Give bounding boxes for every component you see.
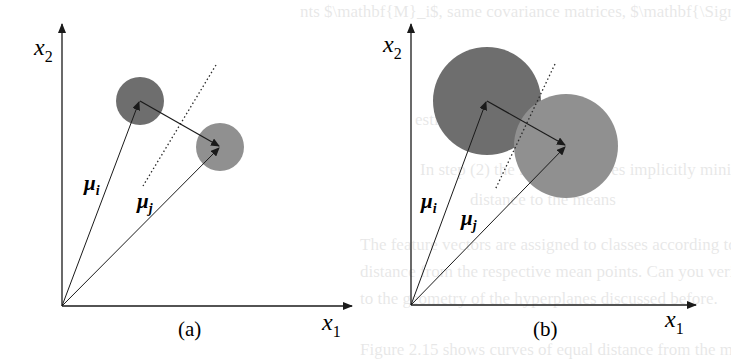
panel-caption-b: (b) bbox=[533, 317, 558, 341]
y-axis-label: x2 bbox=[382, 31, 402, 62]
mean-i-label: μi bbox=[83, 171, 100, 198]
x-axis-label: x1 bbox=[321, 309, 341, 340]
mean-j-label: μj bbox=[136, 189, 153, 216]
difference-vector bbox=[140, 101, 219, 146]
panel-caption-a: (a) bbox=[178, 317, 201, 341]
mean-i-label: μi bbox=[420, 189, 437, 216]
mean-vector-j bbox=[411, 147, 565, 305]
x-axis-label: x1 bbox=[664, 306, 684, 337]
mean-vector-i bbox=[62, 102, 139, 306]
cluster-j-disc bbox=[514, 94, 618, 198]
cluster-diagram: x2 x1 μi μj (a) x2 x1 μi μj bbox=[0, 0, 731, 361]
y-axis-label: x2 bbox=[33, 34, 53, 65]
panel-a: x2 x1 μi μj (a) bbox=[33, 24, 352, 341]
mean-j-label: μj bbox=[460, 206, 477, 233]
panel-b: x2 x1 μi μj (b) bbox=[382, 24, 696, 341]
